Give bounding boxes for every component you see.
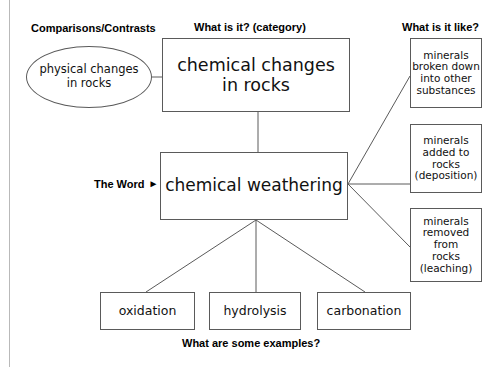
connector-word-to-like-1 [348,76,410,184]
node-label: minerals broken down into other substanc… [412,50,480,97]
right-triangle-arrow-icon: ► [149,179,159,189]
connector-word-to-example-3 [256,220,365,292]
connector-word-to-like-3 [348,184,410,247]
node-label: physical changes in rocks [39,63,138,90]
node-chemical-changes-in-rocks[interactable]: chemical changes in rocks [162,38,350,112]
heading-what-are-some-examples: What are some examples? [182,337,320,349]
the-word-label: The Word [94,178,145,190]
node-label: minerals removed from rocks (leaching) [420,216,473,275]
node-label: hydrolysis [223,304,286,318]
node-label: chemical weathering [165,176,343,195]
node-carbonation[interactable]: carbonation [317,292,411,330]
node-hydrolysis[interactable]: hydrolysis [209,292,301,330]
node-label: oxidation [119,304,177,318]
connector-word-to-example-1 [146,220,256,292]
node-chemical-weathering[interactable]: chemical weathering [160,152,348,220]
node-minerals-broken-down[interactable]: minerals broken down into other substanc… [410,38,482,108]
heading-the-word: The Word ► [94,178,158,190]
node-label: chemical changes in rocks [177,55,335,96]
node-label: carbonation [327,304,402,318]
node-minerals-removed-leaching[interactable]: minerals removed from rocks (leaching) [410,208,482,282]
node-oxidation[interactable]: oxidation [100,292,195,330]
node-minerals-added-deposition[interactable]: minerals added to rocks (deposition) [410,124,482,193]
concept-map-page: Comparisons/Contrasts What is it? (categ… [0,0,501,367]
node-label: minerals added to rocks (deposition) [415,135,478,182]
heading-what-is-it-like: What is it like? [402,21,479,33]
heading-comparisons-contrasts: Comparisons/Contrasts [31,22,156,34]
heading-what-is-it-category: What is it? (category) [194,21,306,33]
node-physical-changes-in-rocks[interactable]: physical changes in rocks [26,46,152,108]
